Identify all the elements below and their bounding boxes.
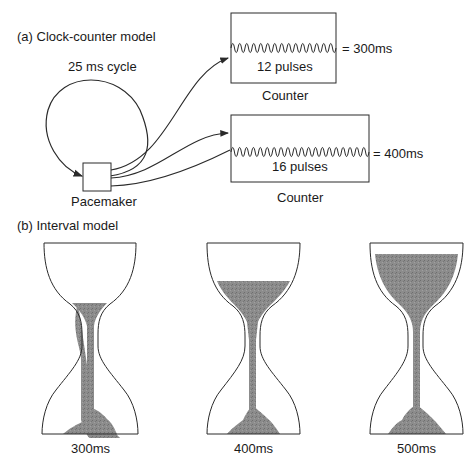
pacemaker-arrows <box>111 58 230 186</box>
counter-1-result: = 300ms <box>342 42 392 55</box>
hourglass-400ms <box>207 243 300 434</box>
section-b-title: (b) Interval model <box>17 219 118 232</box>
hourglass-3-label: 500ms <box>397 442 436 455</box>
pulse-wave-2 <box>231 148 369 157</box>
counter-2-caption: Counter <box>277 191 323 204</box>
pacemaker-box <box>83 163 111 191</box>
section-a-title: (a) Clock-counter model <box>17 30 156 43</box>
hourglass-500ms <box>370 243 463 434</box>
counter-2-result: = 400ms <box>373 147 423 160</box>
counter-2-pulses: 16 pulses <box>272 160 328 173</box>
counter-1-pulses: 12 pulses <box>257 60 313 73</box>
hourglass-300ms <box>42 243 138 438</box>
counter-1-caption: Counter <box>262 89 308 102</box>
cycle-label: 25 ms cycle <box>68 60 137 73</box>
pacemaker-label: Pacemaker <box>71 195 137 208</box>
hourglass-1-label: 300ms <box>71 442 110 455</box>
hourglass-2-label: 400ms <box>234 442 273 455</box>
pulse-wave-1 <box>231 44 336 53</box>
